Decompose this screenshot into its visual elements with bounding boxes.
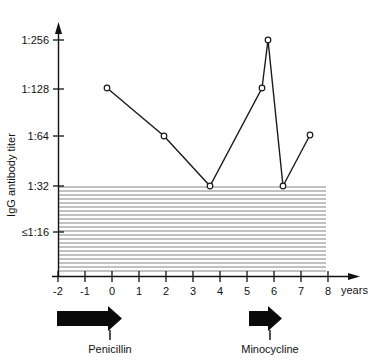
minocycline-label: Minocycline <box>241 343 298 355</box>
y-tick-label-64: 1:64 <box>28 130 49 142</box>
shaded-threshold-region <box>59 187 326 271</box>
y-tick-label-16: ≤1:16 <box>22 226 49 238</box>
y-tick-label-128: 1:128 <box>21 83 49 95</box>
penicillin-arrow-icon <box>57 306 122 331</box>
data-point <box>259 85 265 91</box>
x-tick-label-3: 3 <box>190 285 196 297</box>
x-axis-title: years <box>341 284 368 296</box>
x-axis <box>52 271 360 282</box>
y-tick-label-256: 1:256 <box>21 34 49 46</box>
data-point <box>265 37 271 43</box>
y-axis-arrowhead <box>55 22 62 34</box>
data-point <box>104 85 110 91</box>
x-tick-label-4: 4 <box>217 285 223 297</box>
x-tick-label-2: 2 <box>163 285 169 297</box>
x-tick-label-0: 0 <box>109 285 115 297</box>
x-tick-label-6: 6 <box>271 285 277 297</box>
data-point <box>161 133 167 139</box>
chart-canvas: 1:256 1:128 1:64 1:32 ≤1:16 IgG antibody… <box>0 0 379 361</box>
x-tick-label--2: -2 <box>53 285 63 297</box>
penicillin-annotation: Penicillin <box>57 306 132 355</box>
x-tick-label-1: 1 <box>136 285 142 297</box>
penicillin-label: Penicillin <box>88 343 131 355</box>
y-tick-label-32: 1:32 <box>28 180 49 192</box>
data-point <box>307 132 313 138</box>
minocycline-annotation: Minocycline <box>241 306 298 355</box>
data-point <box>280 183 286 189</box>
minocycline-arrow-icon <box>249 306 282 331</box>
chart-figure: 1:256 1:128 1:64 1:32 ≤1:16 IgG antibody… <box>0 0 379 361</box>
data-point <box>207 183 213 189</box>
y-axis <box>53 22 64 276</box>
x-tick-label-7: 7 <box>298 285 304 297</box>
x-tick-label-5: 5 <box>244 285 250 297</box>
x-axis-arrowhead <box>348 273 360 280</box>
x-tick-label-8: 8 <box>325 285 331 297</box>
y-axis-title: IgG antibody titer <box>5 133 17 217</box>
x-tick-label--1: -1 <box>80 285 90 297</box>
titer-series-line <box>107 40 310 186</box>
